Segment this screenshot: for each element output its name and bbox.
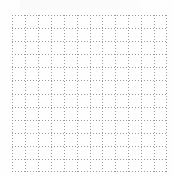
grid-paper-page: [0, 0, 173, 177]
dotted-grid: [12, 15, 167, 172]
grid-lines: [12, 15, 167, 172]
faint-header-mark: [20, 0, 140, 10]
